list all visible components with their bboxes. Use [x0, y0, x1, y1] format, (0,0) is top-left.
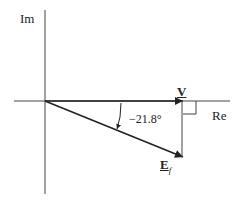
angle-arc [117, 103, 121, 129]
ef-label-subscript: f [169, 165, 172, 175]
v-label: V [177, 85, 186, 98]
ef-phasor [45, 101, 183, 157]
right-angle-marker [183, 101, 196, 114]
phasor-diagram [0, 0, 243, 201]
angle-label: −21.8° [129, 113, 162, 125]
real-axis-label: Re [212, 109, 226, 122]
ef-label-main: E [160, 157, 169, 172]
ef-label: Ef [160, 158, 171, 175]
imaginary-axis-label: Im [20, 12, 34, 25]
